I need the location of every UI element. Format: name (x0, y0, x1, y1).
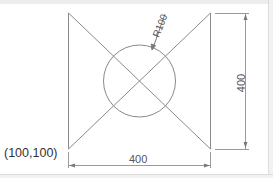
drawing-canvas: (100,100) 400 400 R100 (0, 0, 273, 178)
v-arrow-top (244, 14, 248, 20)
v-arrow-bottom (244, 142, 248, 148)
radius-arrow (151, 44, 155, 50)
width-dimension-label: 400 (129, 153, 147, 165)
height-dimension-label: 400 (235, 74, 247, 92)
origin-coordinate-label: (100,100) (4, 146, 58, 160)
h-arrow-right (204, 164, 210, 168)
h-arrow-left (69, 164, 75, 168)
